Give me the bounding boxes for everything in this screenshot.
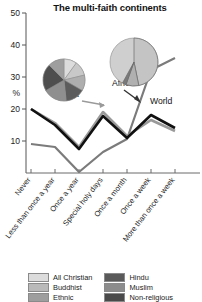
legend-label-all-christian: All Christian <box>53 273 92 282</box>
legend-swatch-all-christian <box>28 273 49 282</box>
y-tick-label-20: 20 <box>11 104 21 114</box>
chart-legend: All Christian Buddhist Ethnic Hindu Musl… <box>28 272 202 302</box>
legend-swatch-non-religious <box>104 293 125 302</box>
y-tick-label-40: 40 <box>11 40 21 50</box>
legend-item-muslim: Muslim <box>104 282 173 292</box>
y-axis <box>22 13 26 173</box>
series-line-asia <box>31 109 175 147</box>
chart-figure: The multi-faith continents 50 40 30 20 1… <box>0 0 202 302</box>
legend-item-buddhist: Buddhist <box>28 282 92 292</box>
pie-chart-africa <box>110 38 158 86</box>
legend-label-ethnic: Ethnic <box>53 293 74 302</box>
callout-arrow-asia <box>82 101 105 108</box>
legend-swatch-hindu <box>104 273 125 282</box>
pie-chart-asia <box>43 59 85 101</box>
legend-item-non-religious: Non-religious <box>104 292 173 302</box>
y-axis-label: % <box>12 88 20 98</box>
legend-label-muslim: Muslim <box>129 283 152 292</box>
legend-column-left: All Christian Buddhist Ethnic <box>28 272 92 302</box>
callout-arrow-africa <box>124 90 141 103</box>
x-axis <box>26 169 200 173</box>
y-tick-label-50: 50 <box>11 8 21 18</box>
chart-plot-area: 50 40 30 20 10 % Asia Africa <box>0 0 202 302</box>
series-line-world <box>31 109 175 149</box>
legend-item-ethnic: Ethnic <box>28 292 92 302</box>
legend-label-buddhist: Buddhist <box>53 283 82 292</box>
legend-item-hindu: Hindu <box>104 272 173 282</box>
legend-column-right: Hindu Muslim Non-religious <box>104 272 173 302</box>
x-tick-labels: Never Less than once a year Once a year … <box>3 175 176 243</box>
y-tick-label-10: 10 <box>11 136 21 146</box>
y-tick-label-30: 30 <box>11 72 21 82</box>
callout-label-world: World <box>150 96 173 106</box>
legend-label-non-religious: Non-religious <box>129 293 173 302</box>
x-tick-label-0: Never <box>13 175 33 197</box>
legend-swatch-buddhist <box>28 283 49 292</box>
legend-label-hindu: Hindu <box>129 273 148 282</box>
legend-item-all-christian: All Christian <box>28 272 92 282</box>
legend-swatch-muslim <box>104 283 125 292</box>
legend-swatch-ethnic <box>28 293 49 302</box>
